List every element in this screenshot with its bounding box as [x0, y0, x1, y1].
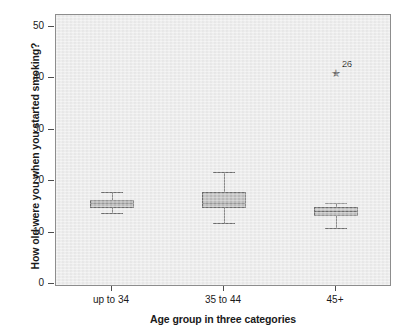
whisker-lower	[336, 216, 337, 228]
y-tick-label: 50	[0, 20, 44, 31]
whisker-cap-lower	[101, 213, 123, 214]
y-tick-label: 40	[0, 71, 44, 82]
y-tick-label: 10	[0, 226, 44, 237]
whisker-upper	[112, 192, 113, 199]
y-tick-label: 30	[0, 123, 44, 134]
box-plot-chart: How old were you when you started smokin…	[0, 0, 409, 334]
y-axis-title: How old were you when you started smokin…	[29, 26, 41, 286]
x-tick-mark	[111, 286, 112, 291]
y-tick-label: 20	[0, 174, 44, 185]
plot-area: ★26	[55, 14, 391, 286]
x-tick-label: up to 34	[61, 294, 161, 305]
outlier-label: 26	[342, 59, 352, 69]
x-axis-title: Age group in three categories	[55, 313, 391, 325]
outlier-star-icon: ★	[331, 68, 341, 79]
whisker-cap-lower	[325, 228, 347, 229]
y-tick-mark	[48, 180, 54, 181]
y-tick-mark	[48, 283, 54, 284]
box-iqr	[90, 200, 134, 208]
y-tick-label: 0	[0, 277, 44, 288]
whisker-lower	[224, 208, 225, 223]
x-tick-label: 45+	[285, 294, 385, 305]
whisker-cap-upper	[213, 172, 235, 173]
median-line	[202, 203, 246, 204]
whisker-cap-upper	[325, 203, 347, 204]
box-iqr	[202, 192, 246, 207]
y-tick-mark	[48, 77, 54, 78]
y-tick-mark	[48, 26, 54, 27]
y-tick-mark	[48, 129, 54, 130]
x-tick-label: 35 to 44	[173, 294, 273, 305]
whisker-upper	[224, 172, 225, 193]
whisker-cap-upper	[101, 192, 123, 193]
x-tick-mark	[335, 286, 336, 291]
median-line	[90, 203, 134, 204]
median-line	[314, 211, 358, 212]
whisker-cap-lower	[213, 223, 235, 224]
y-tick-mark	[48, 232, 54, 233]
x-tick-mark	[223, 286, 224, 291]
